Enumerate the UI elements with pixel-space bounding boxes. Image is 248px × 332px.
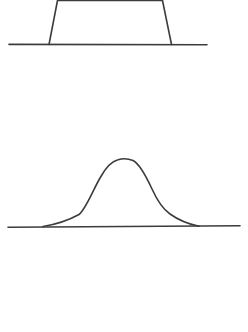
bell-curve-outline <box>43 159 199 227</box>
diagram-canvas <box>0 0 248 332</box>
top-figure <box>9 1 207 45</box>
bottom-figure <box>8 159 240 227</box>
figures-svg <box>0 0 248 332</box>
trapezoid-outline <box>49 1 172 45</box>
stroke-group <box>8 1 240 228</box>
